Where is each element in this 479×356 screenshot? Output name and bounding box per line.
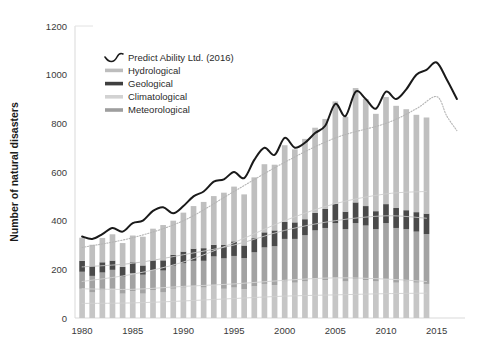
natural-disasters-chart: 020040060080010001200 198019851990199520… xyxy=(0,0,479,356)
bar-segment-geological xyxy=(262,232,268,247)
bar-segment-climatological xyxy=(160,292,166,318)
legend-label: Meteorological xyxy=(128,104,190,115)
bar-1981 xyxy=(89,245,95,318)
bar-2005 xyxy=(333,101,339,318)
bar-segment-climatological xyxy=(393,283,399,318)
bar-segment-geological xyxy=(292,222,298,239)
bar-segment-climatological xyxy=(120,294,126,318)
bar-segment-meteorological xyxy=(343,229,349,281)
bar-2004 xyxy=(322,119,328,318)
x-tick-2005: 2005 xyxy=(325,325,346,336)
y-tick-400: 400 xyxy=(51,215,67,226)
bar-segment-climatological xyxy=(211,285,217,318)
bar-segment-climatological xyxy=(322,280,328,318)
bar-segment-hydrological xyxy=(181,213,187,252)
bar-segment-meteorological xyxy=(140,275,146,294)
bar-segment-meteorological xyxy=(353,223,359,279)
bar-segment-climatological xyxy=(312,279,318,318)
bar-segment-climatological xyxy=(181,288,187,318)
bar-segment-geological xyxy=(373,211,379,229)
bar-segment-meteorological xyxy=(414,232,420,283)
bar-segment-hydrological xyxy=(79,238,85,261)
bar-segment-climatological xyxy=(241,289,247,318)
bar-segment-geological xyxy=(393,208,399,228)
legend-label: Geological xyxy=(128,78,173,89)
x-tick-2010: 2010 xyxy=(375,325,396,336)
bar-2002 xyxy=(302,139,308,318)
bar-segment-meteorological xyxy=(373,229,379,281)
bar-1989 xyxy=(170,221,176,318)
bar-segment-meteorological xyxy=(363,226,369,281)
bar-segment-hydrological xyxy=(383,97,389,204)
bar-segment-hydrological xyxy=(403,109,409,210)
bar-segment-meteorological xyxy=(181,263,187,287)
bar-1984 xyxy=(120,243,126,318)
bar-segment-meteorological xyxy=(292,239,298,283)
bar-segment-hydrological xyxy=(120,243,126,267)
bar-segment-climatological xyxy=(424,284,430,318)
y-tick-200: 200 xyxy=(51,264,67,275)
bar-segment-hydrological xyxy=(373,114,379,211)
bar-segment-geological xyxy=(100,262,106,272)
bar-segment-geological xyxy=(312,213,318,231)
bar-segment-hydrological xyxy=(272,165,278,231)
bar-segment-meteorological xyxy=(170,266,176,289)
bar-segment-climatological xyxy=(292,283,298,318)
bar-segment-hydrological xyxy=(424,117,430,213)
y-tick-0: 0 xyxy=(62,313,67,324)
bar-segment-climatological xyxy=(353,279,359,318)
bar-1997 xyxy=(251,177,257,318)
legend-swatch-icon xyxy=(105,108,123,112)
bar-segment-hydrological xyxy=(414,115,420,212)
bar-segment-climatological xyxy=(282,282,288,319)
legend-label: Climatological xyxy=(128,91,187,102)
bar-segment-climatological xyxy=(251,286,257,318)
legend-swatch-icon xyxy=(105,82,123,86)
bar-segment-geological xyxy=(353,202,359,223)
bar-segment-meteorological xyxy=(424,234,430,284)
bar-1980 xyxy=(79,238,85,318)
bar-segment-meteorological xyxy=(241,258,247,289)
bar-segment-climatological xyxy=(89,292,95,318)
bar-1983 xyxy=(110,234,116,318)
bar-segment-geological xyxy=(383,204,389,223)
bar-2000 xyxy=(282,145,288,318)
bar-segment-climatological xyxy=(170,289,176,318)
y-tick-1200: 1200 xyxy=(46,21,67,32)
bar-2013 xyxy=(414,115,420,318)
bar-1988 xyxy=(160,225,166,318)
bar-segment-meteorological xyxy=(211,256,217,285)
bar-segment-hydrological xyxy=(333,101,339,203)
legend-swatch-icon xyxy=(105,95,123,99)
bar-2008 xyxy=(363,99,369,318)
bar-segment-climatological xyxy=(262,284,268,318)
bar-segment-hydrological xyxy=(191,206,197,249)
bar-segment-hydrological xyxy=(130,236,136,263)
bar-segment-hydrological xyxy=(150,229,156,261)
bar-segment-climatological xyxy=(272,285,278,318)
bar-segment-meteorological xyxy=(110,270,116,289)
bar-2010 xyxy=(383,97,389,318)
bar-segment-hydrological xyxy=(312,128,318,213)
bar-segment-hydrological xyxy=(251,177,257,238)
bar-segment-hydrological xyxy=(353,88,359,202)
bar-segment-meteorological xyxy=(312,230,318,279)
bar-segment-climatological xyxy=(150,290,156,318)
bar-segment-meteorological xyxy=(191,261,197,287)
bar-segment-geological xyxy=(403,210,409,229)
bar-segment-meteorological xyxy=(302,235,308,281)
bar-segment-geological xyxy=(241,245,247,258)
bar-segment-meteorological xyxy=(89,276,95,293)
bar-segment-meteorological xyxy=(272,246,278,285)
bar-segment-meteorological xyxy=(100,272,106,290)
bar-segment-meteorological xyxy=(393,228,399,283)
bar-segment-hydrological xyxy=(363,99,369,206)
bar-segment-climatological xyxy=(100,290,106,318)
x-tick-1985: 1985 xyxy=(122,325,143,336)
bar-1992 xyxy=(201,202,207,318)
legend-label: Hydrological xyxy=(128,65,180,76)
bar-segment-climatological xyxy=(373,282,379,319)
bar-segment-meteorological xyxy=(231,256,237,288)
bar-segment-meteorological xyxy=(403,229,409,281)
bar-segment-meteorological xyxy=(333,223,339,278)
